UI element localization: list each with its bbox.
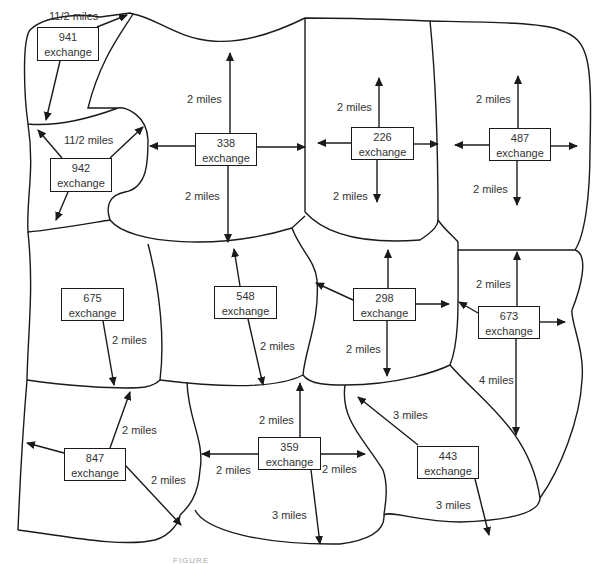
distance-label: 2 miles xyxy=(476,278,511,290)
exchange-label: exchange xyxy=(38,45,98,60)
distance-label: 2 miles xyxy=(333,190,368,202)
boundary-548-298 xyxy=(292,228,317,375)
exchange-box-443: 443exchange xyxy=(417,446,479,479)
exchange-id: 226 xyxy=(352,130,413,145)
distance-label: 2 miles xyxy=(187,93,222,105)
distance-label: 2 miles xyxy=(112,334,147,346)
exchange-label: exchange xyxy=(62,306,123,321)
distance-label: 2 miles xyxy=(476,93,511,105)
distance-label: 11/2 miles xyxy=(49,10,98,22)
exchange-label: exchange xyxy=(51,176,111,191)
boundary-left xyxy=(18,232,31,530)
boundary-675-bottom xyxy=(27,380,160,388)
distance-label: 3 miles xyxy=(436,499,471,511)
exchange-box-942: 942exchange xyxy=(50,158,112,192)
exchange-id: 942 xyxy=(51,161,111,176)
boundary-298-bottom xyxy=(303,365,450,385)
exchange-label: exchange xyxy=(215,304,276,319)
exchange-id: 673 xyxy=(479,309,539,324)
distance-label: 2 miles xyxy=(337,101,372,113)
distance-label: 2 miles xyxy=(260,340,295,352)
exchange-label: exchange xyxy=(259,455,320,470)
boundary-359-443 xyxy=(344,385,386,515)
exchange-box-338: 338exchange xyxy=(195,133,257,166)
distance-label: 2 miles xyxy=(216,464,251,476)
distance-label: 2 miles xyxy=(473,183,508,195)
distance-label: 3 miles xyxy=(393,409,428,421)
boundary-right xyxy=(540,250,583,498)
boundary-338-bottom xyxy=(110,216,305,242)
exchange-id: 338 xyxy=(196,136,256,151)
distance-label: 11/2 miles xyxy=(64,134,113,146)
exchange-label: exchange xyxy=(418,464,478,479)
exchange-box-548: 548exchange xyxy=(214,286,277,319)
distance-label: 2 miles xyxy=(322,463,357,475)
exchange-label: exchange xyxy=(65,466,125,481)
exchange-box-847: 847exchange xyxy=(64,448,126,481)
figure-caption: FIGURE xyxy=(173,556,209,564)
exchange-box-941: 941exchange xyxy=(37,27,99,61)
exchange-id: 487 xyxy=(490,131,550,146)
exchange-id: 675 xyxy=(62,291,123,306)
boundary-847-359 xyxy=(180,382,201,515)
exchange-box-298: 298exchange xyxy=(353,288,416,321)
exchange-label: exchange xyxy=(479,324,539,339)
exchange-id: 941 xyxy=(38,30,98,45)
boundary-298-673 xyxy=(450,250,458,365)
exchange-id: 548 xyxy=(215,289,276,304)
exchange-label: exchange xyxy=(196,151,256,166)
exchange-id: 298 xyxy=(354,291,415,306)
distance-label: 2 miles xyxy=(259,414,294,426)
distance-label: 2 miles xyxy=(185,190,220,202)
boundary-226-487 xyxy=(430,21,438,220)
distance-label: 3 miles xyxy=(272,509,307,521)
boundary-548-bottom xyxy=(160,375,303,386)
distance-label: 2 miles xyxy=(151,474,186,486)
exchange-id: 847 xyxy=(65,451,125,466)
exchange-box-359: 359exchange xyxy=(258,437,321,470)
distance-label: 2 miles xyxy=(122,424,157,436)
distance-label: 2 miles xyxy=(346,343,381,355)
exchange-label: exchange xyxy=(354,306,415,321)
boundary-226-bottom xyxy=(305,212,438,241)
exchange-label: exchange xyxy=(352,145,413,160)
exchange-box-675: 675exchange xyxy=(61,288,124,321)
exchange-label: exchange xyxy=(490,146,550,161)
boundary-847-bottom xyxy=(18,515,180,543)
exchange-id: 359 xyxy=(259,440,320,455)
distance-label: 4 miles xyxy=(479,374,514,386)
boundary-487-bottom xyxy=(438,220,575,250)
exchange-box-673: 673exchange xyxy=(478,306,540,339)
boundary-675-548 xyxy=(148,244,162,380)
exchange-box-487: 487exchange xyxy=(489,128,551,161)
exchange-box-226: 226exchange xyxy=(351,127,414,160)
exchange-id: 443 xyxy=(418,449,478,464)
